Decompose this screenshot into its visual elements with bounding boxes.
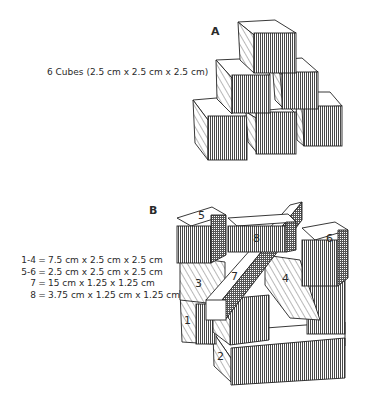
block-number-7: 7 xyxy=(231,270,238,283)
block-number-5: 5 xyxy=(198,209,205,222)
block-number-1: 1 xyxy=(184,314,191,327)
legend-row: 7=15 cm x 1.25 x 1.25 cm xyxy=(0,278,180,290)
legend-row: 8=3.75 cm x 1.25 cm x 1.25 cm xyxy=(0,290,180,302)
figure-a-label: A xyxy=(211,25,220,38)
block-dimensions-legend: 1-4=7.5 cm x 2.5 cm x 2.5 cm 5-6=2.5 cm … xyxy=(0,255,180,301)
block-number-8: 8 xyxy=(253,232,260,245)
block-8 xyxy=(228,214,296,252)
cube-bottom-middle xyxy=(246,108,296,154)
figure-a-caption: 6 Cubes (2.5 cm x 2.5 cm x 2.5 cm) xyxy=(47,67,208,77)
block-number-2: 2 xyxy=(217,350,224,363)
figure-b-label: B xyxy=(149,204,157,217)
cube-pyramid xyxy=(193,20,342,160)
block-number-6: 6 xyxy=(326,232,333,245)
block-number-4: 4 xyxy=(282,272,289,285)
block-construction xyxy=(177,202,348,385)
block-number-3: 3 xyxy=(195,277,202,290)
cube-top xyxy=(238,20,296,73)
legend-row: 1-4=7.5 cm x 2.5 cm x 2.5 cm xyxy=(0,255,180,267)
block-6 xyxy=(302,222,348,286)
legend-row: 5-6=2.5 cm x 2.5 cm x 2.5 cm xyxy=(0,267,180,279)
block-diagrams xyxy=(0,0,369,402)
